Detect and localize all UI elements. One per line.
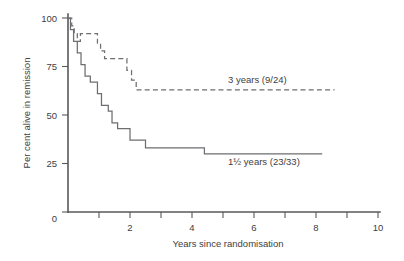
y-axis-ticks bbox=[62, 18, 68, 212]
survival-curve-18-months bbox=[68, 18, 322, 154]
x-axis-title: Years since randomisation bbox=[172, 238, 283, 249]
y-axis-title: Per cent alive in remission bbox=[21, 58, 32, 169]
x-tick-label-2: 2 bbox=[127, 222, 132, 233]
survival-curve-figure: 100 75 50 25 0 2 4 6 8 10 3 years (9/24)… bbox=[0, 0, 404, 261]
x-tick-label-8: 8 bbox=[313, 222, 318, 233]
y-tick-label-50: 50 bbox=[46, 110, 57, 121]
y-tick-label-25: 25 bbox=[46, 158, 57, 169]
x-tick-label-6: 6 bbox=[251, 222, 256, 233]
x-tick-label-10: 10 bbox=[373, 222, 384, 233]
y-tick-label-75: 75 bbox=[46, 61, 57, 72]
series-annotation-18-months: 1½ years (23/33) bbox=[228, 156, 300, 167]
x-tick-label-4: 4 bbox=[189, 222, 194, 233]
survival-curve-3-years bbox=[68, 18, 335, 90]
y-tick-label-0: 0 bbox=[52, 213, 57, 224]
chart-canvas: 100 75 50 25 0 2 4 6 8 10 3 years (9/24)… bbox=[0, 0, 404, 261]
series-annotation-3-years: 3 years (9/24) bbox=[228, 74, 287, 85]
x-axis-ticks bbox=[99, 212, 378, 218]
y-tick-label-100: 100 bbox=[41, 13, 57, 24]
